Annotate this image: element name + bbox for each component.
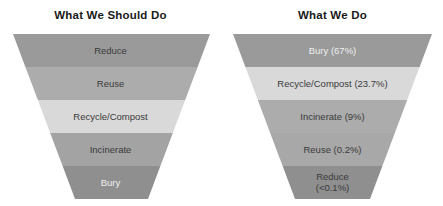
panel-what-we-should-do: What We Should Do Reduce Reuse — [0, 0, 221, 206]
funnel-label-reuse: Reuse — [0, 67, 221, 100]
page-title-right: What We Do — [222, 8, 443, 23]
funnel-label-incinerate: Incinerate (9%) — [222, 100, 443, 133]
funnel-label-bury: Bury (67%) — [222, 34, 443, 67]
funnel-label-reuse: Reuse (0.2%) — [222, 133, 443, 166]
panel-what-we-do: What We Do Bury (67%) Recycle/ — [222, 0, 443, 206]
funnel-comparison-figure: What We Should Do Reduce Reuse — [0, 0, 443, 206]
funnel-label-reduce-line2: (<0.1%) — [316, 183, 350, 194]
funnel-label-reduce: Reduce (<0.1%) — [222, 166, 443, 199]
funnel-label-incinerate: Incinerate — [0, 133, 221, 166]
funnel-should: Reduce Reuse Recycle/Compost Incinerate … — [0, 34, 221, 199]
funnel-label-bury: Bury — [0, 166, 221, 199]
funnel-label-recycle-compost: Recycle/Compost — [0, 100, 221, 133]
funnel-should-labels: Reduce Reuse Recycle/Compost Incinerate … — [0, 34, 221, 199]
page-title-left: What We Should Do — [0, 8, 221, 23]
funnel-label-reduce: Reduce — [0, 34, 221, 67]
funnel-label-reduce-line1: Reduce — [316, 172, 350, 183]
funnel-label-recycle-compost: Recycle/Compost (23.7%) — [222, 67, 443, 100]
funnel-do: Bury (67%) Recycle/Compost (23.7%) Incin… — [222, 34, 443, 199]
funnel-do-labels: Bury (67%) Recycle/Compost (23.7%) Incin… — [222, 34, 443, 199]
